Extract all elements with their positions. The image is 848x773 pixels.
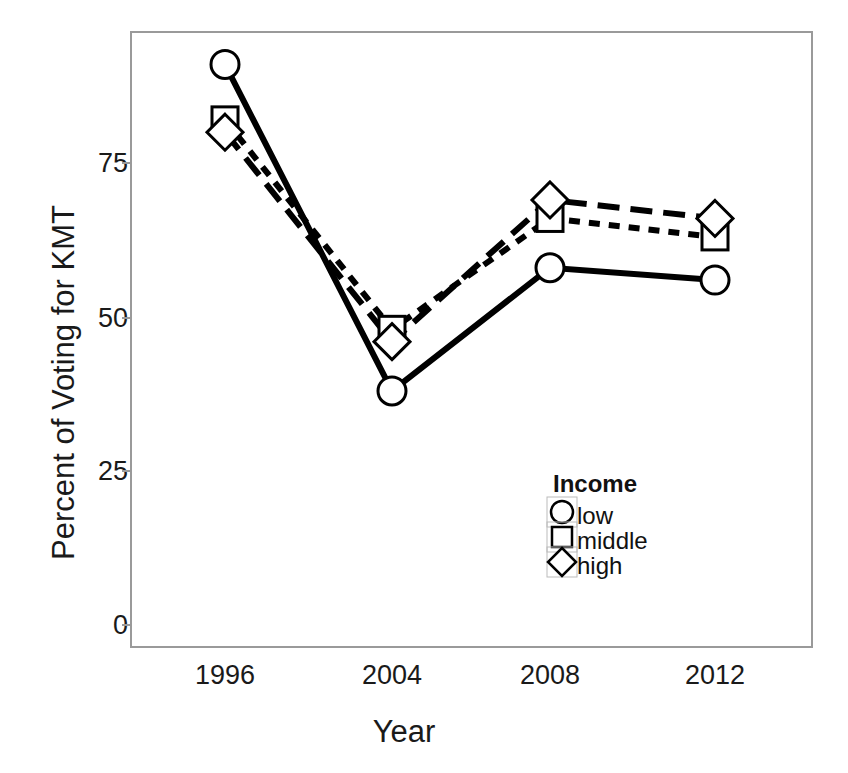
series-line-high: [225, 132, 715, 341]
square-icon: [552, 527, 572, 547]
data-point-low-2012[interactable]: [701, 266, 729, 294]
data-point-low-1996[interactable]: [211, 50, 239, 78]
data-point-low-2008[interactable]: [536, 254, 564, 282]
y-axis-ticks: [122, 163, 131, 625]
plot-canvas: [0, 0, 848, 773]
legend-key-symbols: [547, 497, 577, 577]
data-series-layer: [207, 50, 733, 404]
circle-icon: [551, 501, 573, 523]
chart-figure: Percent of Voting for KMT 75 50 25 0 199…: [0, 0, 848, 773]
data-point-low-2004[interactable]: [378, 377, 406, 405]
